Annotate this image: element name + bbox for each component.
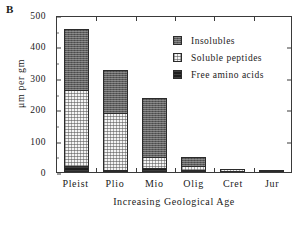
y-tick-500 xyxy=(57,17,61,18)
bar-segment-mio-soluble-peptides xyxy=(142,157,166,168)
legend-item-soluble-peptides: Soluble peptides xyxy=(173,50,293,65)
legend-swatch-insolubles xyxy=(173,36,182,45)
x-tick-label-jur: Jur xyxy=(265,178,279,189)
y-minor-tick-450 xyxy=(57,32,59,33)
x-tick-label-plio: Plio xyxy=(106,178,125,189)
x-tick-label-cret: Cret xyxy=(223,178,243,189)
legend-swatch-soluble-peptides xyxy=(173,53,182,62)
bar-mio xyxy=(142,98,166,172)
y-tick-right-100 xyxy=(287,142,291,143)
bar-olig xyxy=(181,157,205,172)
x-tick-bottom-2 xyxy=(136,168,137,172)
y-tick-300 xyxy=(57,79,61,80)
legend-label-insolubles: Insolubles xyxy=(191,36,235,46)
y-tick-100 xyxy=(57,142,61,143)
y-tick-label-0: 0 xyxy=(0,168,46,178)
y-tick-label-400: 400 xyxy=(0,42,46,52)
x-tick-top-4 xyxy=(214,17,215,21)
legend-label-free-amino-acids: Free amino acids xyxy=(191,70,264,80)
bar-plio xyxy=(103,70,127,172)
legend-item-insolubles: Insolubles xyxy=(173,33,293,48)
x-tick-bottom-1 xyxy=(96,168,97,172)
y-minor-tick-250 xyxy=(57,95,59,96)
bar-segment-jur-soluble-peptides xyxy=(259,171,283,172)
y-minor-tick-50 xyxy=(57,158,59,159)
figure-panel-b: B μm per gm 0 100 200 300 400 500 xyxy=(0,0,304,228)
legend: Insolubles Soluble peptides Free amino a… xyxy=(173,33,293,84)
y-tick-label-200: 200 xyxy=(0,105,46,115)
bar-segment-pleist-free-amino-acids xyxy=(64,166,88,172)
bar-segment-plio-soluble-peptides xyxy=(103,113,127,170)
y-minor-tick-150 xyxy=(57,126,59,127)
y-tick-0 xyxy=(57,174,61,175)
y-tick-400 xyxy=(57,48,61,49)
bar-cret xyxy=(220,169,244,172)
bar-segment-pleist-insolubles xyxy=(64,29,88,89)
bar-pleist xyxy=(64,29,88,172)
x-tick-label-olig: Olig xyxy=(183,178,204,189)
x-tick-top-3 xyxy=(175,17,176,21)
y-tick-right-200 xyxy=(287,111,291,112)
y-axis-tick-labels: 0 100 200 300 400 500 xyxy=(0,0,56,228)
x-tick-bottom-5 xyxy=(254,168,255,172)
bar-segment-olig-insolubles xyxy=(181,157,205,166)
x-axis-title: Increasing Geological Age xyxy=(56,196,292,207)
y-tick-label-300: 300 xyxy=(0,74,46,84)
y-tick-200 xyxy=(57,111,61,112)
x-tick-bottom-4 xyxy=(214,168,215,172)
x-tick-top-5 xyxy=(254,17,255,21)
bar-jur xyxy=(259,171,283,172)
x-tick-label-pleist: Pleist xyxy=(62,178,88,189)
y-minor-tick-350 xyxy=(57,64,59,65)
bar-segment-mio-insolubles xyxy=(142,98,166,157)
y-tick-label-100: 100 xyxy=(0,137,46,147)
bar-segment-olig-soluble-peptides xyxy=(181,166,205,170)
x-tick-top-2 xyxy=(136,17,137,21)
legend-item-free-amino-acids: Free amino acids xyxy=(173,67,293,82)
bar-segment-mio-free-amino-acids xyxy=(142,168,166,172)
bar-segment-plio-free-amino-acids xyxy=(103,170,127,172)
legend-label-soluble-peptides: Soluble peptides xyxy=(191,53,262,63)
bar-segment-pleist-soluble-peptides xyxy=(64,90,88,166)
y-tick-label-500: 500 xyxy=(0,11,46,21)
x-tick-top-1 xyxy=(96,17,97,21)
x-axis-tick-labels: Pleist Plio Mio Olig Cret Jur xyxy=(56,178,292,194)
x-tick-label-mio: Mio xyxy=(145,178,164,189)
bar-segment-cret-soluble-peptides xyxy=(220,169,244,171)
x-tick-bottom-3 xyxy=(175,168,176,172)
bar-segment-plio-insolubles xyxy=(103,70,127,113)
legend-swatch-free-amino-acids xyxy=(173,70,182,79)
